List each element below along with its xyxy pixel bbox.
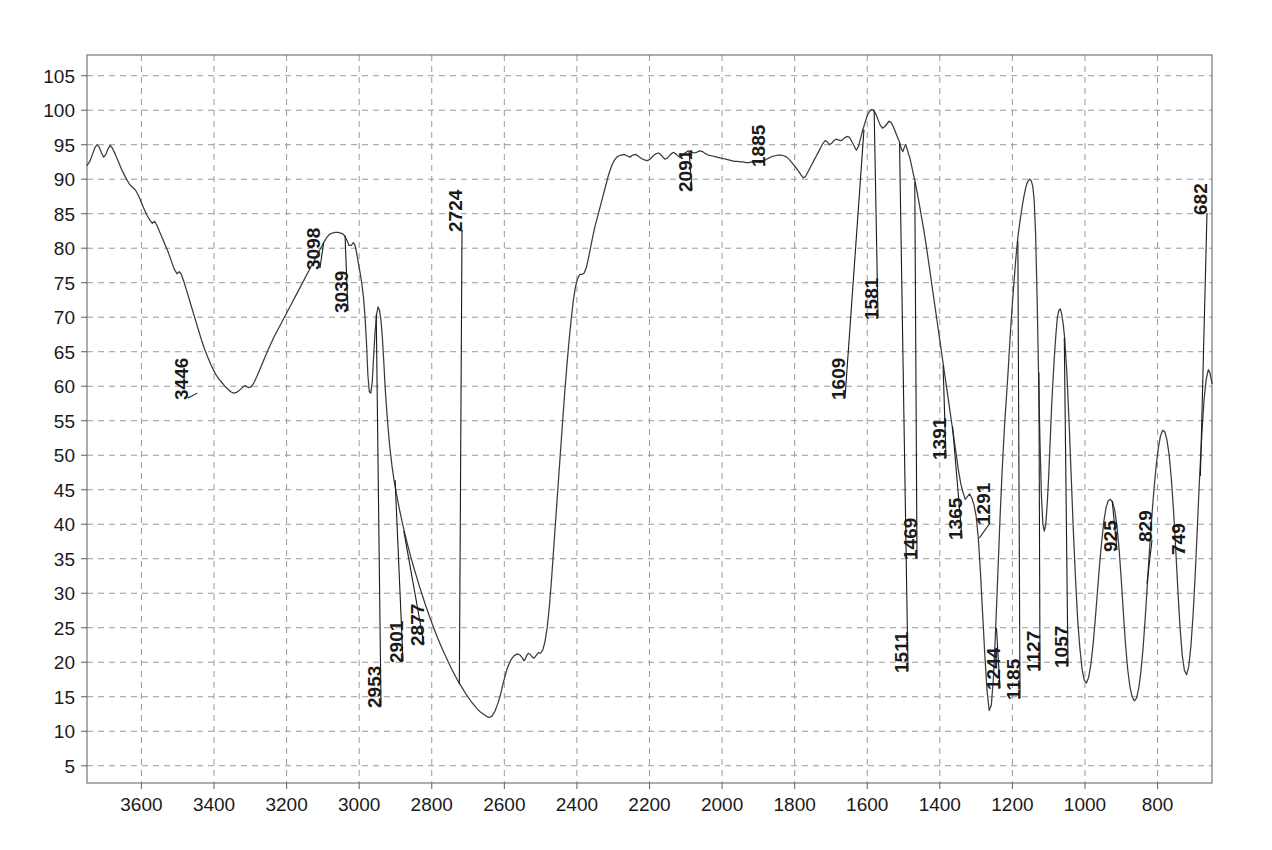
y-tick-label: 40 (54, 514, 75, 535)
spectrum-chart: 5101520253035404550556065707580859095100… (0, 0, 1272, 850)
x-tick-label: 2200 (628, 794, 670, 815)
peak-label-682: 682 (1190, 183, 1211, 215)
x-tick-label: 3000 (338, 794, 380, 815)
x-tick-label: 1200 (991, 794, 1033, 815)
peak-label-2901: 2901 (386, 620, 407, 663)
y-tick-label: 55 (54, 411, 75, 432)
y-tick-label: 70 (54, 307, 75, 328)
chart-background (0, 0, 1272, 850)
y-tick-label: 60 (54, 376, 75, 397)
y-tick-label: 50 (54, 445, 75, 466)
y-tick-label: 20 (54, 652, 75, 673)
y-tick-label: 25 (54, 618, 75, 639)
x-tick-label: 2400 (556, 794, 598, 815)
x-tick-label: 1800 (774, 794, 816, 815)
peak-label-1391: 1391 (929, 417, 950, 460)
peak-label-1057: 1057 (1051, 626, 1072, 668)
y-tick-label: 45 (54, 480, 75, 501)
x-tick-label: 2000 (701, 794, 743, 815)
y-tick-label: 65 (54, 342, 75, 363)
peak-label-749: 749 (1168, 523, 1189, 555)
y-tick-label: 5 (64, 756, 75, 777)
peak-label-1185: 1185 (1003, 658, 1024, 700)
peak-label-2953: 2953 (364, 666, 385, 708)
x-axis-tick-labels: 3600340032003000280026002400220020001800… (120, 794, 1173, 815)
peak-label-1511: 1511 (891, 631, 912, 673)
y-tick-label: 15 (54, 687, 75, 708)
peak-label-1127: 1127 (1023, 631, 1044, 672)
y-tick-label: 100 (43, 100, 75, 121)
x-tick-label: 3400 (193, 794, 235, 815)
peak-label-925: 925 (1100, 520, 1121, 552)
peak-label-829: 829 (1135, 510, 1156, 542)
peak-label-1885: 1885 (748, 124, 769, 167)
peak-label-2091: 2091 (675, 149, 696, 192)
y-tick-label: 80 (54, 238, 75, 259)
x-tick-label: 3200 (265, 794, 307, 815)
peak-label-3098: 3098 (303, 228, 324, 270)
y-tick-label: 10 (54, 721, 75, 742)
x-tick-label: 800 (1142, 794, 1174, 815)
y-tick-label: 75 (54, 273, 75, 294)
y-tick-label: 95 (54, 135, 75, 156)
y-tick-label: 30 (54, 583, 75, 604)
x-tick-label: 1600 (846, 794, 888, 815)
ir-spectrum-figure: 5101520253035404550556065707580859095100… (0, 0, 1272, 850)
peak-label-2724: 2724 (445, 189, 466, 232)
peak-label-3039: 3039 (331, 271, 352, 313)
x-tick-label: 2800 (411, 794, 453, 815)
y-tick-label: 105 (43, 66, 75, 87)
x-tick-label: 1400 (919, 794, 961, 815)
peak-label-2877: 2877 (407, 604, 428, 646)
peak-label-1609: 1609 (828, 358, 849, 400)
y-tick-label: 90 (54, 169, 75, 190)
peak-label-1244: 1244 (983, 647, 1004, 690)
peak-label-1291: 1291 (973, 482, 994, 525)
peak-label-1469: 1469 (900, 518, 921, 560)
y-tick-label: 85 (54, 204, 75, 225)
peak-label-1581: 1581 (861, 277, 882, 320)
peak-label-3446: 3446 (171, 358, 192, 400)
y-tick-label: 35 (54, 549, 75, 570)
peak-label-1365: 1365 (945, 497, 966, 540)
x-tick-label: 1000 (1064, 794, 1106, 815)
x-tick-label: 3600 (120, 794, 162, 815)
x-tick-label: 2600 (483, 794, 525, 815)
